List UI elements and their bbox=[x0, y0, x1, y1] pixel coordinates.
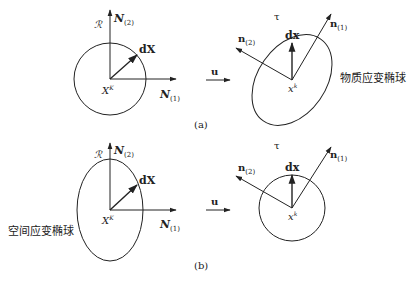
point-xk-label: xk bbox=[288, 210, 298, 222]
dX-vector-arrow bbox=[110, 185, 137, 210]
axis-n1-label: n(1) bbox=[330, 18, 347, 32]
map-u-label: u bbox=[211, 66, 218, 77]
point-XK-label: XK bbox=[101, 84, 114, 96]
panel-b-current: τ n(1) n(2) dx xk bbox=[236, 140, 347, 241]
axis-n2-label: n(2) bbox=[238, 162, 255, 176]
point-xk-label: xk bbox=[288, 82, 298, 94]
map-u: u bbox=[206, 196, 230, 210]
dx-label: dx bbox=[285, 161, 300, 174]
region-label: τ bbox=[274, 11, 280, 22]
axis-n1-label: N(1) bbox=[159, 218, 180, 233]
axis-n2-label: N(2) bbox=[113, 12, 134, 27]
panel-a: ℛ N(2) N(1) dX XK u τ n(1) n(2) dx xk 物质… bbox=[74, 10, 406, 140]
caption-a: (a) bbox=[194, 119, 208, 130]
map-u: u bbox=[206, 66, 230, 80]
panel-a-current: τ n(1) n(2) dx xk 物质应变椭球 bbox=[235, 11, 406, 140]
spatial-strain-ellipsoid-label: 空间应变椭球 bbox=[8, 224, 74, 238]
dX-vector-arrow bbox=[110, 55, 137, 79]
region-label: ℛ bbox=[94, 19, 103, 30]
axis-n1-arrow bbox=[292, 147, 331, 208]
axis-n2-arrow bbox=[236, 48, 292, 80]
panel-b-reference: ℛ N(2) N(1) dX XK 空间应变椭球 bbox=[8, 143, 180, 261]
point-XK-label: XK bbox=[101, 214, 114, 226]
panel-b: ℛ N(2) N(1) dX XK 空间应变椭球 u τ n(1) n(2) d… bbox=[8, 140, 347, 271]
dX-label: dX bbox=[139, 43, 156, 56]
strain-ellipsoid-diagram: ℛ N(2) N(1) dX XK u τ n(1) n(2) dx xk 物质… bbox=[0, 0, 408, 281]
map-u-label: u bbox=[211, 196, 218, 207]
region-label: ℛ bbox=[94, 149, 103, 160]
dx-label: dx bbox=[285, 29, 300, 42]
panel-a-reference: ℛ N(2) N(1) dX XK bbox=[74, 10, 180, 115]
region-label: τ bbox=[274, 140, 280, 151]
axis-n2-label: N(2) bbox=[113, 144, 134, 159]
caption-b: (b) bbox=[194, 260, 208, 271]
axis-n1-label: N(1) bbox=[159, 88, 180, 103]
axis-n1-arrow bbox=[292, 14, 331, 80]
axis-n2-label: n(2) bbox=[238, 33, 255, 47]
axis-n1-label: n(1) bbox=[330, 149, 347, 163]
material-strain-ellipsoid-label: 物质应变椭球 bbox=[340, 71, 406, 85]
axis-n2-arrow bbox=[236, 176, 292, 208]
dX-label: dX bbox=[139, 174, 156, 187]
